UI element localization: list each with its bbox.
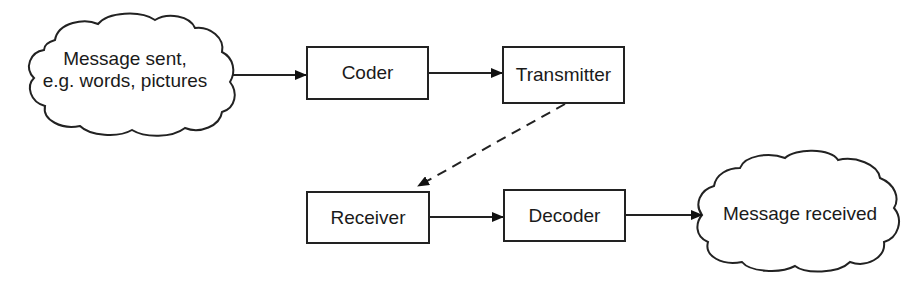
diagram-canvas xyxy=(0,0,922,291)
transmitter-box: Transmitter xyxy=(502,46,625,104)
receiver-box: Receiver xyxy=(306,191,430,244)
message-sent-line2: e.g. words, pictures xyxy=(30,70,220,92)
arrow-transmitter-to-receiver xyxy=(418,104,565,186)
coder-label: Coder xyxy=(342,62,394,84)
message-received-label: Message received xyxy=(705,203,895,225)
message-sent-line1: Message sent, xyxy=(30,48,220,70)
decoder-box: Decoder xyxy=(503,189,626,242)
coder-box: Coder xyxy=(306,46,429,100)
transmitter-label: Transmitter xyxy=(516,64,611,86)
message-sent-label: Message sent, e.g. words, pictures xyxy=(30,48,220,92)
decoder-label: Decoder xyxy=(529,205,601,227)
receiver-label: Receiver xyxy=(331,207,406,229)
